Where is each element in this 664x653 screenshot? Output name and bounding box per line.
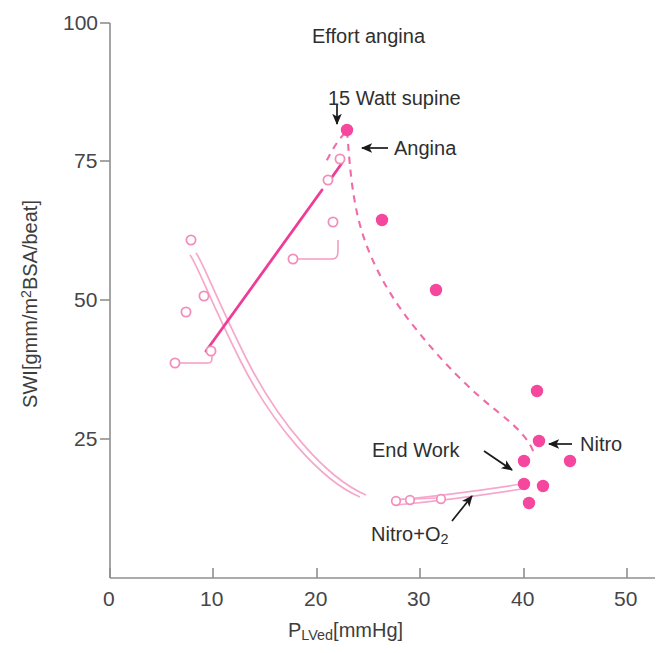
- y-axis-title: SWI[gmm/m2BSA/beat]: [19, 200, 41, 408]
- end-work-arrow: [484, 451, 512, 470]
- series-angina-dashed-curve: [326, 131, 535, 456]
- x-axis-title-main: P: [288, 619, 301, 641]
- nitro-o2-label: Nitro+O2: [371, 524, 448, 547]
- series-nitro-o2-tail: [396, 484, 522, 505]
- series-ascending-line: [206, 163, 342, 351]
- x-axis-ticks: [110, 568, 627, 578]
- y-axis-ticks: [100, 23, 110, 439]
- y-axis-title-wrap: SWI[gmm/m2BSA/beat]: [18, 94, 42, 514]
- chart-figure: 100 75 50 25 0 10 20 30 40 50 PLVed[mmHg…: [0, 0, 664, 653]
- x-tick-label-50: 50: [614, 588, 637, 609]
- series-nitro-o2-markers: [392, 495, 446, 506]
- y-tick-label-50: 50: [74, 289, 97, 310]
- y-tick-label-25: 25: [74, 428, 97, 449]
- x-tick-label-30: 30: [407, 588, 430, 609]
- x-tick-label-20: 20: [304, 588, 327, 609]
- y-axis-title-sup: 2: [18, 290, 34, 298]
- chart-title: Effort angina: [312, 26, 425, 46]
- y-tick-label-75: 75: [74, 150, 97, 171]
- angina-label: Angina: [394, 138, 456, 158]
- x-axis-title-sub: LVed: [301, 627, 333, 643]
- series-nitro-o2-curve: [190, 253, 366, 497]
- nitro-label: Nitro: [580, 434, 622, 454]
- y-tick-label-100: 100: [63, 12, 98, 33]
- series-open-circles: [170, 154, 344, 367]
- x-tick-label-0: 0: [103, 588, 115, 609]
- x-axis-title: PLVed[mmHg]: [288, 620, 403, 643]
- nitro-o2-label-main: Nitro+O: [371, 523, 440, 545]
- x-tick-label-10: 10: [200, 588, 223, 609]
- nitro-o2-label-sub: 2: [440, 531, 448, 547]
- x-axis-title-unit: [mmHg]: [333, 619, 403, 641]
- open-circle-connectors: [180, 240, 338, 363]
- y-axis-title-rest: BSA/beat]: [19, 200, 41, 290]
- x-tick-label-40: 40: [511, 588, 534, 609]
- y-axis-title-main: SWI[gmm/m: [19, 298, 41, 408]
- end-work-label: End Work: [372, 440, 459, 460]
- watt-supine-label: 15 Watt supine: [328, 88, 461, 108]
- nitro-o2-arrow: [452, 496, 472, 521]
